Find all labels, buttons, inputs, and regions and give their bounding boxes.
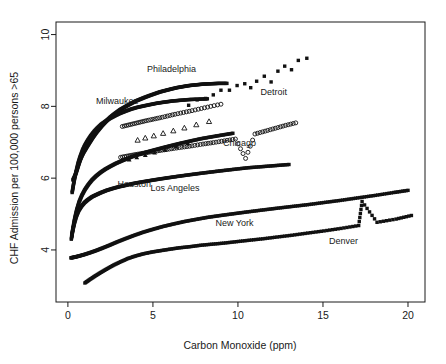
series-label-detroit: Detroit bbox=[260, 87, 287, 97]
data-point bbox=[385, 219, 388, 222]
data-point bbox=[228, 89, 231, 92]
plot-area: 0510152046810 PhiladelphiaMilwaukeeDetro… bbox=[0, 0, 446, 364]
data-point bbox=[249, 86, 252, 89]
data-point bbox=[375, 221, 378, 224]
data-point bbox=[391, 218, 394, 221]
y-tick-label-4: 4 bbox=[39, 247, 51, 253]
x-axis-title: Carbon Monoxide (ppm) bbox=[183, 339, 296, 351]
series-label-denver: Denver bbox=[329, 236, 358, 246]
data-point bbox=[358, 216, 361, 219]
data-point bbox=[287, 163, 290, 166]
data-point bbox=[241, 152, 245, 156]
data-point bbox=[151, 133, 156, 138]
data-markers-layer bbox=[69, 57, 413, 285]
series-detroit bbox=[187, 57, 309, 107]
x-tick-label-10: 10 bbox=[232, 309, 244, 321]
data-point bbox=[243, 82, 246, 85]
data-point bbox=[255, 80, 258, 83]
y-axis-title: CHF Admission per 100,000 persons >65 bbox=[8, 72, 20, 264]
data-point bbox=[305, 57, 308, 60]
y-tick-label-8: 8 bbox=[39, 103, 51, 109]
data-point bbox=[204, 97, 207, 100]
data-point bbox=[212, 93, 215, 96]
data-point bbox=[358, 220, 361, 223]
data-point bbox=[359, 212, 362, 215]
data-point bbox=[283, 64, 286, 67]
data-point bbox=[161, 131, 166, 136]
data-point bbox=[370, 214, 373, 217]
y-tick-label-10: 10 bbox=[39, 29, 51, 41]
series-label-philadelphia: Philadelphia bbox=[147, 64, 196, 74]
data-point bbox=[187, 104, 190, 107]
series-label-chicago: Chicago bbox=[223, 138, 256, 148]
data-point bbox=[342, 226, 345, 229]
data-point bbox=[182, 125, 187, 130]
data-point bbox=[348, 225, 351, 228]
data-point bbox=[297, 59, 300, 62]
x-tick-label-15: 15 bbox=[317, 309, 329, 321]
x-tick-label-20: 20 bbox=[402, 309, 414, 321]
data-point bbox=[235, 84, 238, 87]
data-point bbox=[382, 220, 385, 223]
chf-carbon-monoxide-scatter-figure: 0510152046810 PhiladelphiaMilwaukeeDetro… bbox=[0, 0, 446, 364]
data-point bbox=[388, 218, 391, 221]
data-point bbox=[231, 132, 234, 135]
data-point bbox=[368, 210, 371, 213]
data-point bbox=[373, 217, 376, 220]
data-point bbox=[354, 224, 357, 227]
data-point bbox=[206, 119, 211, 124]
data-point bbox=[171, 128, 176, 133]
data-point bbox=[345, 226, 348, 229]
data-point bbox=[290, 68, 293, 71]
axes-frame-layer bbox=[56, 22, 425, 302]
series-los-angeles bbox=[70, 163, 291, 241]
data-point bbox=[360, 204, 363, 207]
x-tick-label-0: 0 bbox=[65, 309, 71, 321]
plot-frame bbox=[56, 22, 425, 302]
data-point bbox=[263, 75, 266, 78]
series-label-milwaukee: Milwaukee bbox=[96, 96, 139, 106]
data-point bbox=[379, 220, 382, 223]
y-tick-label-6: 6 bbox=[39, 175, 51, 181]
data-point bbox=[135, 138, 140, 143]
data-point bbox=[246, 150, 250, 154]
data-point bbox=[351, 225, 354, 228]
series-label-new-york: New York bbox=[215, 218, 254, 228]
data-point bbox=[359, 208, 362, 211]
x-tick-label-5: 5 bbox=[150, 309, 156, 321]
series-label-houston: Houston bbox=[117, 179, 151, 189]
data-point bbox=[363, 203, 366, 206]
series-label-los-angeles: Los Angeles bbox=[150, 183, 200, 193]
data-point bbox=[406, 189, 409, 192]
data-point bbox=[410, 214, 413, 217]
data-point bbox=[276, 69, 279, 72]
data-point bbox=[244, 156, 248, 160]
data-point bbox=[269, 80, 272, 83]
data-point bbox=[339, 227, 342, 230]
data-point bbox=[294, 121, 298, 125]
data-point bbox=[219, 89, 222, 92]
data-point bbox=[365, 207, 368, 210]
data-point bbox=[360, 200, 363, 203]
data-point bbox=[194, 122, 199, 127]
data-point bbox=[195, 98, 198, 101]
data-point bbox=[225, 82, 228, 85]
data-point bbox=[143, 135, 148, 140]
data-point bbox=[357, 224, 360, 227]
